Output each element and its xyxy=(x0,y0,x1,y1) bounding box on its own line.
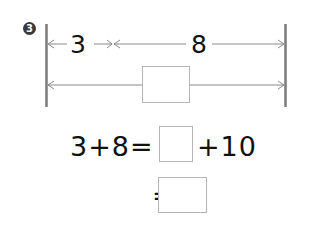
equation-line1-left: 3+8= xyxy=(70,133,154,160)
segment-a-label: 3 xyxy=(70,32,86,57)
equation-line1-answer-box[interactable] xyxy=(159,126,193,162)
equation-line2-answer-box[interactable] xyxy=(158,177,207,213)
total-answer-box[interactable] xyxy=(142,66,190,103)
equation-line1-right: +10 xyxy=(197,133,257,160)
segment-b-label: 8 xyxy=(191,32,207,57)
